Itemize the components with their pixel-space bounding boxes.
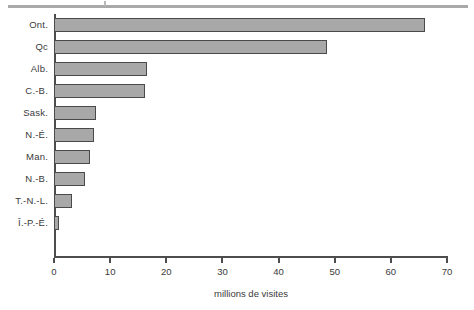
category-label: Î.-P.-É. (0, 218, 48, 228)
header-divider-artifact (104, 1, 106, 6)
category-label: Qc (0, 42, 48, 52)
bar (54, 216, 59, 230)
x-axis-tick-label: 10 (90, 266, 130, 277)
x-axis-tick (221, 258, 223, 263)
bar (54, 106, 96, 120)
bar-chart-figure: Ont.QcAlb.C.-B.Sask.N.-É.Man.N.-B.T.-N.-… (0, 0, 474, 310)
x-axis-tick (53, 258, 55, 263)
x-axis-title-text: millions de visites (214, 288, 288, 299)
x-axis-tick-label: 30 (202, 266, 242, 277)
x-axis-tick (109, 258, 111, 263)
bar (54, 128, 94, 142)
bar-row (54, 212, 447, 234)
x-axis-tick (334, 258, 336, 263)
x-axis-tick-label: 0 (34, 266, 74, 277)
x-axis-tick-label: 20 (146, 266, 186, 277)
x-axis-tick-label: 70 (427, 266, 467, 277)
category-label: Man. (0, 152, 48, 162)
bar-row (54, 124, 447, 146)
category-label: Alb. (0, 64, 48, 74)
x-axis-tick-label: 50 (315, 266, 355, 277)
bar (54, 40, 327, 54)
x-axis-tick-label: 40 (259, 266, 299, 277)
bar-row (54, 168, 447, 190)
bar-row (54, 80, 447, 102)
bar (54, 18, 425, 32)
bar (54, 84, 145, 98)
bar-row (54, 146, 447, 168)
bar-row (54, 58, 447, 80)
category-label: N.-É. (0, 130, 48, 140)
bar (54, 62, 147, 76)
header-divider (8, 5, 468, 8)
category-label: Sask. (0, 108, 48, 118)
bar-row (54, 14, 447, 36)
category-label: T.-N.-L. (0, 196, 48, 206)
x-axis-title: millions de visites (0, 288, 474, 299)
bar (54, 150, 90, 164)
x-axis-tick (390, 258, 392, 263)
x-axis-tick-label: 60 (371, 266, 411, 277)
bar-row (54, 36, 447, 58)
category-label: C.-B. (0, 86, 48, 96)
x-axis-tick (446, 258, 448, 263)
bar (54, 172, 85, 186)
category-label: Ont. (0, 20, 48, 30)
category-label: N.-B. (0, 174, 48, 184)
bar (54, 194, 72, 208)
x-axis-tick (165, 258, 167, 263)
x-axis-tick (278, 258, 280, 263)
bar-row (54, 190, 447, 212)
bar-row (54, 102, 447, 124)
